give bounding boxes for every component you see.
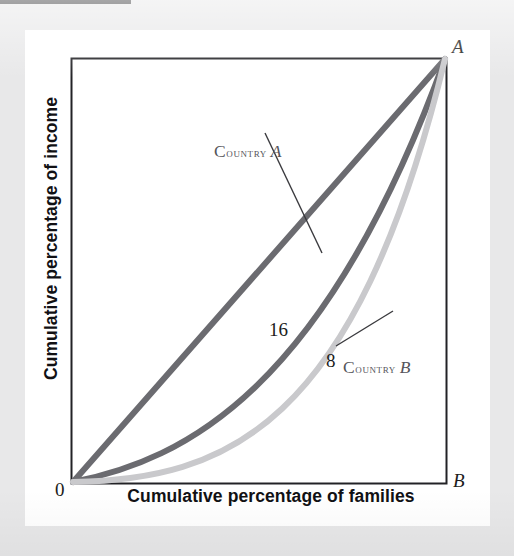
annotation-country-a-lead: C: [214, 141, 226, 161]
annotation-country-a: Country A: [214, 141, 282, 162]
annotation-country-b-symbol: B: [400, 357, 411, 377]
chart-canvas: [25, 30, 490, 526]
corner-label-origin: 0: [55, 479, 65, 501]
corner-label-a: A: [452, 36, 464, 58]
annotation-country-b-lead: C: [343, 357, 355, 377]
page-top-rule: [0, 0, 131, 4]
annotation-country-a-symbol: A: [271, 141, 282, 161]
y-axis-title: Cumulative percentage of income: [41, 74, 62, 404]
lorenz-curve-chart: Cumulative percentage of income Cumulati…: [25, 30, 490, 526]
annotation-country-b: Country B: [343, 357, 411, 378]
area-value-8: 8: [326, 350, 336, 372]
x-axis-title: Cumulative percentage of families: [71, 486, 471, 507]
annotation-country-a-rest: ountry: [226, 145, 271, 160]
series-line-of-equality: [73, 59, 445, 482]
figure-card: Cumulative percentage of income Cumulati…: [25, 30, 490, 526]
corner-label-b: B: [453, 470, 465, 492]
area-value-16: 16: [269, 319, 288, 341]
annotation-country-b-rest: ountry: [355, 361, 400, 376]
